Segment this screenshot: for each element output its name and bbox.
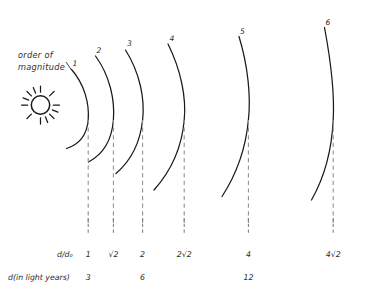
wavefront-arc-5	[222, 37, 249, 197]
wavefront-label-3: 3	[127, 39, 132, 48]
axis-row-lightyears-header: d(in light years)	[8, 273, 70, 282]
axis-row-lightyears-value-1: 3	[86, 273, 91, 282]
axis-row-lightyears-value-5: 12	[243, 273, 253, 282]
axis-row-ratio-header: d/d₀	[57, 250, 74, 259]
wavefront-arcs	[67, 28, 334, 201]
axis-row-ratio-value-5: 4	[246, 250, 251, 259]
axis-row-ratio: d/d₀ 1 √2 2 2√2 4 4√2	[57, 250, 341, 259]
diagram-canvas: order of magnitude 1 2 3 4 5 6	[0, 0, 372, 296]
axis-ticks	[88, 218, 333, 233]
pointer-tick	[66, 62, 72, 70]
sun-icon	[22, 86, 60, 124]
axis-row-ratio-value-4: 2√2	[177, 250, 192, 259]
order-of-magnitude-line2: magnitude	[18, 62, 65, 72]
axis-row-lightyears: d(in light years) 3 6 12	[8, 273, 253, 282]
wavefront-arc-4	[154, 44, 185, 190]
axis-row-ratio-value-3: 2	[140, 250, 145, 259]
wavefront-label-5: 5	[240, 27, 245, 36]
apex-drop-lines	[88, 120, 333, 226]
wavefront-arc-6	[312, 28, 334, 201]
wavefront-arc-1	[67, 70, 89, 149]
wavefront-label-1: 1	[73, 59, 78, 68]
wavefront-label-4: 4	[170, 34, 175, 43]
wavefront-arc-3	[116, 50, 143, 174]
wavefront-number-labels: 1 2 3 4 5 6	[73, 18, 331, 68]
wavefront-label-6: 6	[326, 18, 331, 27]
axis-row-ratio-value-2: √2	[108, 250, 118, 259]
order-of-magnitude-label: order of magnitude	[18, 50, 72, 72]
axis-row-lightyears-value-3: 6	[140, 273, 145, 282]
wavefront-label-2: 2	[97, 46, 102, 55]
axis-row-ratio-value-6: 4√2	[326, 250, 341, 259]
wavefront-arc-2	[89, 56, 114, 162]
order-of-magnitude-line1: order of	[18, 50, 54, 60]
axis-row-ratio-value-1: 1	[86, 250, 91, 259]
wavefront-figure: order of magnitude 1 2 3 4 5 6	[0, 0, 372, 296]
